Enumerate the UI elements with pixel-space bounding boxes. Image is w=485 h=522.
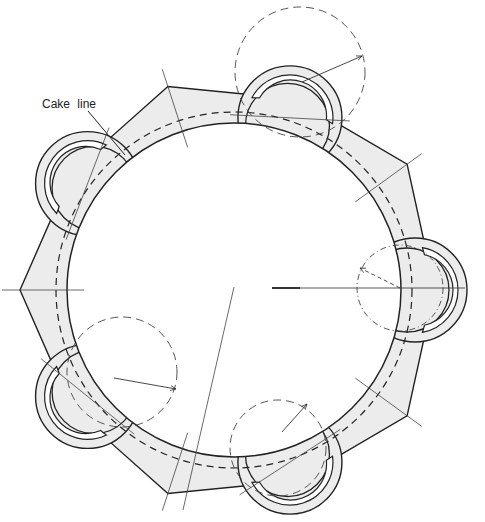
inner-circle — [67, 123, 401, 457]
cake-board-diagram — [0, 0, 485, 522]
cake-line-label: Cake line — [42, 97, 96, 111]
radius-arrow — [302, 56, 362, 82]
board-shape — [20, 66, 467, 514]
